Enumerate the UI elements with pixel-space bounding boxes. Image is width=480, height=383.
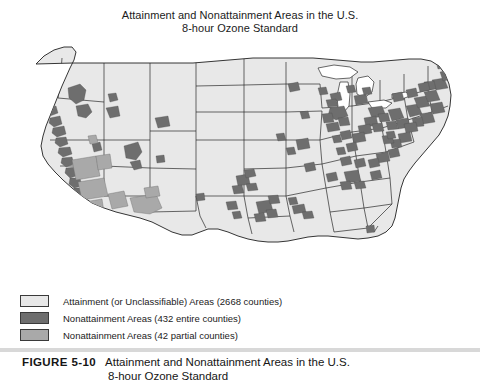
map-legend: Attainment (or Unclassifiable) Areas (26…	[20, 293, 350, 344]
legend-item-attainment: Attainment (or Unclassifiable) Areas (26…	[20, 293, 350, 309]
legend-label-nonattainment-entire: Nonattainment Areas (432 entire counties…	[63, 313, 241, 324]
legend-swatch-nonattainment-entire	[20, 312, 49, 324]
figure-title-line-2: 8-hour Ozone Standard	[0, 22, 480, 35]
figure-caption-number: FIGURE 5-10	[22, 356, 96, 368]
map-svg	[0, 36, 480, 286]
figure-caption: FIGURE 5-10Attainment and Nonattainment …	[22, 355, 472, 383]
figure-title-line-1: Attainment and Nonattainment Areas in th…	[0, 9, 480, 22]
legend-swatch-nonattainment-partial	[20, 329, 49, 341]
legend-swatch-attainment	[20, 295, 49, 307]
legend-item-nonattainment-partial: Nonattainment Areas (42 partial counties…	[20, 327, 350, 343]
figure-caption-line-2: 8-hour Ozone Standard	[108, 369, 472, 383]
legend-label-attainment: Attainment (or Unclassifiable) Areas (26…	[63, 296, 282, 307]
figure-caption-line-1: Attainment and Nonattainment Areas in th…	[105, 356, 350, 368]
us-ozone-attainment-map	[0, 36, 480, 286]
legend-label-nonattainment-partial: Nonattainment Areas (42 partial counties…	[63, 330, 238, 341]
caption-divider-rule	[0, 348, 480, 352]
legend-item-nonattainment-entire: Nonattainment Areas (432 entire counties…	[20, 310, 350, 326]
figure-title: Attainment and Nonattainment Areas in th…	[0, 9, 480, 35]
